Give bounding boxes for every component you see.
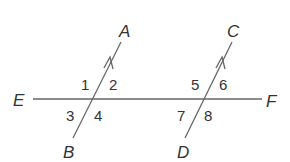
point-label-c: C xyxy=(227,22,240,41)
angle-label-5: 5 xyxy=(191,76,199,93)
angle-label-7: 7 xyxy=(177,107,185,124)
angle-label-8: 8 xyxy=(204,107,212,124)
point-label-a: A xyxy=(118,22,130,41)
angle-label-1: 1 xyxy=(81,76,89,93)
angle-label-6: 6 xyxy=(219,76,227,93)
parallel-lines-diagram: A B C D E F 1 2 3 4 5 6 7 8 xyxy=(0,0,290,162)
point-label-b: B xyxy=(63,143,74,162)
point-label-d: D xyxy=(177,143,189,162)
angle-label-2: 2 xyxy=(109,76,117,93)
point-label-e: E xyxy=(13,91,25,110)
angle-label-4: 4 xyxy=(94,107,102,124)
angle-label-3: 3 xyxy=(66,107,74,124)
point-label-f: F xyxy=(266,92,278,111)
